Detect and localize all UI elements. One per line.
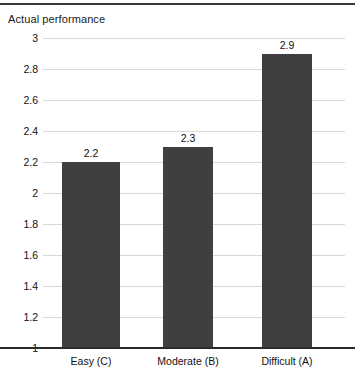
y-axis-tick-label: 2.6 <box>4 95 38 106</box>
y-axis-tick-label: 1.6 <box>4 250 38 261</box>
x-axis-category-label: Moderate (B) <box>138 355 238 367</box>
y-axis-tick-label: 3 <box>4 33 38 44</box>
bar-value-label: 2.3 <box>163 133 213 144</box>
x-axis-category-label: Easy (C) <box>41 355 141 367</box>
x-axis-category-label: Difficult (A) <box>237 355 337 367</box>
bar[interactable] <box>262 54 312 349</box>
chart-title: Actual performance <box>8 13 105 26</box>
y-axis-tick-label: 2.8 <box>4 64 38 75</box>
bar[interactable] <box>163 147 213 349</box>
plot-area <box>43 38 345 348</box>
y-axis-tick-label: 2.4 <box>4 126 38 137</box>
bar-value-label: 2.2 <box>62 148 120 159</box>
y-axis-tick-label: 1.4 <box>4 281 38 292</box>
y-axis-tick-label: 1.8 <box>4 219 38 230</box>
y-axis-tick-label: 2.2 <box>4 157 38 168</box>
y-axis-tick-labels: 32.82.62.42.221.81.61.41.21 <box>0 38 38 348</box>
top-border-rule <box>0 3 355 5</box>
bar[interactable] <box>62 162 120 348</box>
y-axis-tick-label: 2 <box>4 188 38 199</box>
bar-value-label: 2.9 <box>262 40 312 51</box>
x-axis-baseline <box>0 347 355 349</box>
bar-chart-figure: Actual performance 32.82.62.42.221.81.61… <box>0 0 355 385</box>
y-axis-tick-label: 1.2 <box>4 312 38 323</box>
